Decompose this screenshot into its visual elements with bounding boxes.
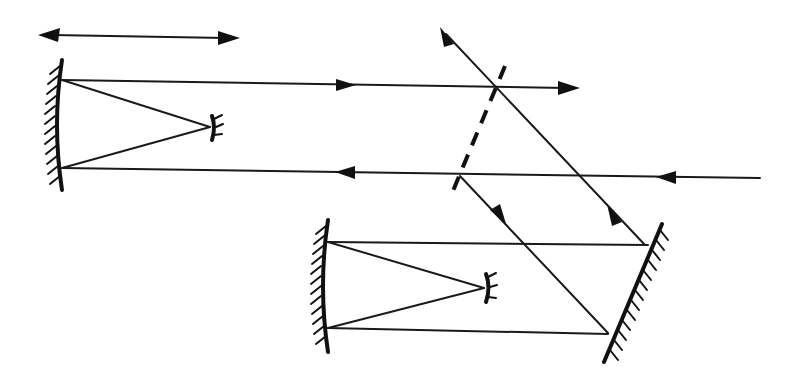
return-diagonal-ray bbox=[440, 27, 645, 245]
upper-primary-mirror-icon bbox=[45, 60, 62, 190]
lower-primary-mirror-icon bbox=[311, 220, 328, 352]
split-down-ray bbox=[460, 176, 608, 333]
optical-diagram bbox=[0, 0, 790, 389]
lower-secondary-mirror-icon bbox=[486, 273, 497, 302]
translation-double-arrow bbox=[38, 28, 240, 45]
upper-secondary-mirror-icon bbox=[212, 115, 223, 140]
input-ray bbox=[62, 166, 760, 184]
upper-telescope-rays bbox=[62, 80, 210, 168]
